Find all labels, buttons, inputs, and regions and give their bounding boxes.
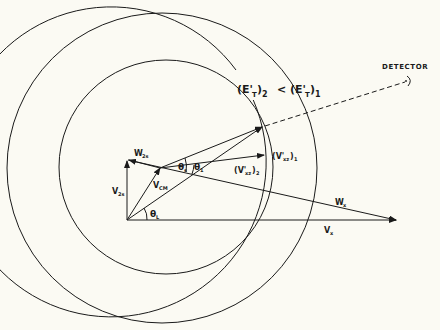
svg-text:1: 1	[200, 167, 204, 173]
v-cm-label: V CM	[153, 181, 168, 191]
svg-text:xz: xz	[245, 170, 251, 176]
vector-diagram: DETECTOR (E' T ) 2 < (E' T ) 1 W 2s V 2s…	[0, 0, 440, 330]
w-2s-vector	[129, 160, 160, 168]
w-x-vector	[128, 160, 396, 220]
svg-text:1: 1	[294, 156, 298, 162]
svg-text:(E': (E'	[290, 83, 306, 96]
svg-text:x: x	[343, 202, 347, 208]
theta-1-label: θ 1	[194, 162, 204, 173]
svg-text:xz: xz	[283, 156, 289, 162]
svg-text:2: 2	[256, 170, 260, 176]
w-x-label: W x	[335, 198, 347, 208]
svg-text:CM: CM	[159, 185, 168, 191]
svg-text:2: 2	[262, 90, 268, 99]
svg-text:(E': (E'	[237, 83, 253, 96]
detector-dot	[405, 80, 407, 82]
svg-text:s: s	[184, 167, 187, 173]
v-xz-1-label: (V' xz ) 1	[272, 152, 298, 162]
svg-text:1: 1	[315, 90, 321, 99]
svg-text:x: x	[330, 230, 334, 236]
v-xz-2-label: (V' xz ) 2	[234, 166, 260, 176]
theta-l-label: θ L	[150, 209, 160, 220]
theta-l-arc	[144, 208, 147, 220]
v-x-label: V x	[324, 226, 334, 236]
outer-energy-circle	[0, 7, 266, 317]
svg-text:2s: 2s	[142, 153, 148, 159]
detector-label: DETECTOR	[382, 63, 428, 71]
svg-text:L: L	[156, 214, 160, 220]
svg-text:2s: 2s	[118, 191, 124, 197]
v-2s-label: V 2s	[112, 187, 124, 197]
theta-s-label: θ s	[178, 162, 187, 173]
w-2s-label: W 2s	[134, 149, 148, 159]
svg-text:<: <	[277, 83, 286, 96]
detector-icon	[407, 76, 410, 86]
